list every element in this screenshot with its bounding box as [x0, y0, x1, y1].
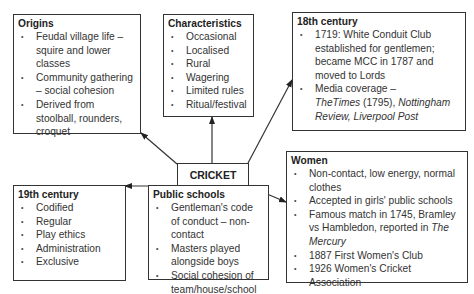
- characteristics-item: Wagering: [168, 71, 249, 85]
- eighteenth-century-item: 1719: White Conduit Club established for…: [297, 28, 461, 82]
- women-item: 1887 First Women's Club: [291, 249, 463, 263]
- women-item: 1926 Women's Cricket Association: [291, 262, 463, 289]
- the-times-title: TheTimes: [315, 97, 360, 108]
- women-title: Women: [291, 154, 463, 167]
- origins-item: Feudal village life – squire and lower c…: [18, 30, 136, 71]
- eighteenth-century-item: Media coverage – TheTimes (1795), Nottin…: [297, 82, 461, 123]
- characteristics-item: Rural: [168, 57, 249, 71]
- year-text: (1795),: [360, 97, 398, 108]
- nineteenth-century-item: Exclusive: [18, 255, 121, 269]
- women-item: Famous match in 1745, Bramley vs Hambled…: [291, 208, 463, 249]
- characteristics-item: Localised: [168, 44, 249, 58]
- cricket-center-node: CRICKET: [177, 163, 249, 187]
- public-schools-item: Gentleman's code of conduct – non-contac…: [153, 201, 264, 242]
- public-schools-title: Public schools: [153, 188, 264, 201]
- nineteenth-century-title: 19th century: [18, 188, 121, 201]
- women-box: Women Non-contact, low energy, normal cl…: [286, 151, 468, 283]
- nineteenth-century-item: Play ethics: [18, 228, 121, 242]
- women-item: Accepted in girls' public schools: [291, 194, 463, 208]
- center-label: CRICKET: [190, 169, 237, 181]
- public-schools-item: Social cohesion of team/house/school: [153, 269, 264, 294]
- nineteenth-century-item: Administration: [18, 242, 121, 256]
- eighteenth-century-box: 18th century 1719: White Conduit Club es…: [292, 12, 466, 131]
- origins-box: Origins Feudal village life – squire and…: [13, 14, 141, 134]
- characteristics-item: Ritual/festival: [168, 98, 249, 112]
- characteristics-item: Occasional: [168, 30, 249, 44]
- nineteenth-century-item: Regular: [18, 215, 121, 229]
- origins-item: Community gathering – social cohesion: [18, 71, 136, 98]
- characteristics-title: Characteristics: [168, 17, 249, 30]
- arrow-to-origins: [141, 133, 177, 164]
- public-schools-box: Public schools Gentleman's code of condu…: [148, 185, 269, 280]
- characteristics-box: Characteristics Occasional Localised Rur…: [163, 14, 254, 117]
- women-item: Non-contact, low energy, normal clothes: [291, 167, 463, 194]
- characteristics-item: Limited rules: [168, 84, 249, 98]
- nineteenth-century-box: 19th century Codified Regular Play ethic…: [13, 185, 126, 281]
- origins-item: Derived from stoolball, rounders, croque…: [18, 98, 136, 139]
- nineteenth-century-item: Codified: [18, 201, 121, 215]
- media-coverage-text: Media coverage –: [315, 83, 396, 94]
- origins-title: Origins: [18, 17, 136, 30]
- public-schools-item: Masters played alongside boys: [153, 242, 264, 269]
- eighteenth-century-title: 18th century: [297, 15, 461, 28]
